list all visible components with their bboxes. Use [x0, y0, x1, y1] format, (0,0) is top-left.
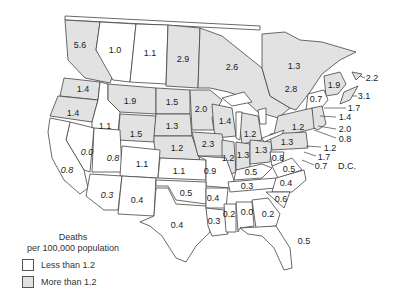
- region-value-label: 0.5: [180, 188, 193, 198]
- legend-label-more: More than 1.2: [41, 277, 97, 287]
- region-value-label: 1.9: [124, 96, 137, 106]
- region-value-label: 0.8: [339, 134, 352, 144]
- region-value-label: 1.9: [328, 80, 341, 90]
- region-value-label: 0.4: [171, 220, 184, 230]
- region-value-label: 1.2: [222, 153, 235, 163]
- region-value-label: 1.3: [166, 121, 179, 131]
- region-value-label: 0.7: [315, 161, 328, 171]
- legend-item-less: Less than 1.2: [22, 259, 128, 271]
- region-value-label: 0.6: [275, 194, 288, 204]
- legend-swatch-gray: [22, 276, 34, 288]
- region-value-label: 1.3: [288, 61, 301, 71]
- region-value-label: 0.5: [245, 167, 258, 177]
- region-value-label: 2.0: [339, 124, 352, 134]
- region-value-label: 1.4: [339, 112, 352, 122]
- region-value-label: 2.2: [366, 73, 379, 83]
- region-value-label: 1.3: [237, 150, 250, 160]
- region-value-label: 0.8: [61, 165, 74, 175]
- region-value-label: 0.0: [81, 147, 94, 157]
- region-value-label: 0.5: [283, 164, 296, 174]
- region-value-label: 0.9: [204, 166, 217, 176]
- region-value-label: 1.5: [166, 97, 179, 107]
- dc-label: D.C.: [338, 161, 356, 171]
- region-value-label: 0.2: [223, 209, 236, 219]
- region-value-label: 3.1: [358, 91, 371, 101]
- region-value-label: 1.4: [77, 84, 90, 94]
- region-value-label: 0.3: [208, 216, 221, 226]
- region-value-label: 1.1: [136, 159, 149, 169]
- legend-title-line2: per 100,000 population: [18, 243, 128, 254]
- legend-swatch-white: [22, 259, 34, 271]
- region-value-label: 0.8: [107, 153, 120, 163]
- region-value-label: 1.0: [109, 45, 122, 55]
- region-value-label: 1.3: [255, 145, 268, 155]
- region-value-label: 2.0: [195, 104, 208, 114]
- region-value-label: 0.3: [241, 181, 254, 191]
- region-value-label: 1.1: [173, 166, 186, 176]
- region-value-label: 0.4: [207, 193, 220, 203]
- region-value-label: 1.4: [219, 116, 232, 126]
- region-value-label: 5.6: [74, 40, 87, 50]
- region-value-label: 2.9: [177, 54, 190, 64]
- region-value-label: 1.2: [171, 143, 184, 153]
- region-utah: [92, 128, 122, 172]
- region-value-label: 1.1: [144, 48, 157, 58]
- region-value-label: 1.5: [130, 129, 143, 139]
- region-value-label: 0.4: [131, 195, 144, 205]
- region-value-label: 0.3: [101, 190, 114, 200]
- region-value-label: 1.4: [67, 108, 80, 118]
- region-value-label: 2.3: [202, 139, 215, 149]
- region-florida: [240, 226, 292, 270]
- region-value-label: 0.0: [241, 207, 254, 217]
- region-value-label: 1.2: [244, 129, 257, 139]
- legend-title-line1: Deaths: [18, 232, 128, 243]
- region-value-label: 1.1: [99, 121, 112, 131]
- region-value-label: 1.3: [281, 137, 294, 147]
- region-value-label: 0.4: [280, 178, 293, 188]
- legend-item-more: More than 1.2: [22, 276, 128, 288]
- region-value-label: 0.7: [310, 94, 323, 104]
- region-value-label: 0.5: [298, 236, 311, 246]
- region-value-label: 2.6: [226, 62, 239, 72]
- legend-label-less: Less than 1.2: [41, 260, 95, 270]
- region-value-label: 2.8: [285, 84, 298, 94]
- region-value-label: 0.2: [262, 209, 275, 219]
- region-value-label: 1.2: [292, 122, 305, 132]
- region-value-label: 0.8: [272, 153, 285, 163]
- legend: Deaths per 100,000 population Less than …: [18, 232, 128, 288]
